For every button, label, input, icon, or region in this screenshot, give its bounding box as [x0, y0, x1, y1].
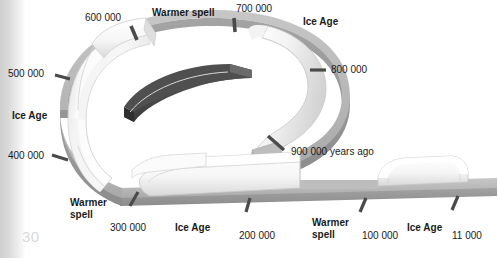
label-warmer-bottom-line2: spell [312, 229, 335, 241]
page-number: 30 [22, 228, 40, 245]
label-ice-age-left: Ice Age [12, 110, 47, 121]
label-ice-age-top-right: Ice Age [303, 16, 338, 27]
label-500000: 500 000 [8, 68, 44, 79]
tick-100000 [360, 198, 366, 212]
label-warmer-spell-top: Warmer spell [152, 7, 214, 18]
figure-canvas: 600 000 700 000 800 000 900 000 years ag… [0, 0, 498, 258]
warm-spell-dark-arc [124, 64, 252, 122]
label-700000: 700 000 [236, 3, 272, 14]
tick-700000 [234, 18, 235, 32]
label-100000: 100 000 [362, 230, 398, 241]
label-ice-age-bottom-right: Ice Age [407, 222, 442, 233]
tick-400000 [52, 155, 68, 160]
ice-block-lower-last [378, 156, 468, 186]
label-400000: 400 000 [8, 150, 44, 161]
label-warmer-bottom-line1: Warmer [312, 217, 349, 229]
label-800000: 800 000 [331, 64, 367, 75]
label-300000: 300 000 [110, 222, 146, 233]
label-200000: 200 000 [239, 230, 275, 241]
label-ice-age-bottom: Ice Age [175, 222, 210, 233]
label-900000: 900 000 years ago [291, 146, 374, 157]
tick-11000 [452, 196, 458, 210]
label-600000: 600 000 [85, 12, 121, 23]
warm-spell-gap-lower [300, 180, 378, 189]
label-warmer-left-line2: spell [70, 209, 93, 221]
label-11000: 11 000 [452, 230, 482, 241]
label-warmer-left-line1: Warmer [70, 197, 107, 209]
